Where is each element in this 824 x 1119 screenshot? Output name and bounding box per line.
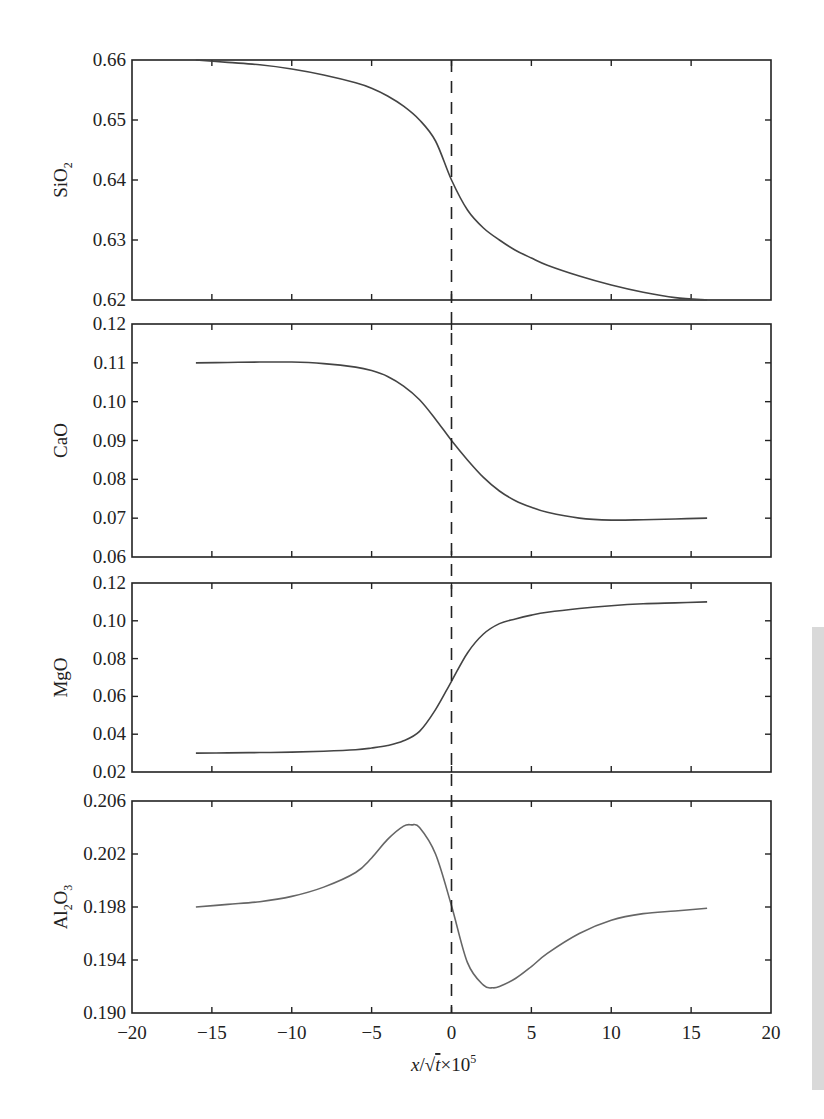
y-tick-label: 0.194 [83, 949, 126, 970]
figure: 0.660.650.640.630.62SiO20.120.110.100.09… [0, 0, 824, 1119]
y-tick-label: 0.66 [93, 49, 126, 70]
y-tick-label: 0.12 [93, 313, 126, 334]
y-tick-label: 0.10 [93, 610, 126, 631]
panel-sio2: 0.660.650.640.630.62SiO2 [50, 49, 771, 310]
x-tick-label: 15 [682, 1022, 701, 1043]
data-line-sio2 [196, 60, 707, 300]
y-tick-label: 0.198 [83, 896, 126, 917]
y-tick-label: 0.63 [93, 229, 126, 250]
panel-al2o3: 0.2060.2020.1980.1940.190Al2O3 [50, 790, 771, 1023]
x-axis-title: x/√t×105 [410, 1052, 476, 1075]
x-tick-label: 5 [527, 1022, 537, 1043]
y-tick-label: 0.02 [93, 761, 126, 782]
y-tick-label: 0.190 [83, 1002, 126, 1023]
x-axis-tick-labels: −20−15−10−505101520 [117, 1022, 780, 1043]
panel-mgo: 0.120.100.080.060.040.02MgO [50, 572, 771, 782]
x-tick-label: 10 [602, 1022, 621, 1043]
x-tick-label: 20 [762, 1022, 781, 1043]
y-tick-label: 0.202 [83, 843, 126, 864]
y-tick-label: 0.07 [93, 507, 126, 528]
y-axis-title: SiO2 [50, 162, 75, 198]
x-tick-label: −20 [117, 1022, 147, 1043]
panel-cao: 0.120.110.100.090.080.070.06CaO [50, 313, 771, 567]
y-tick-label: 0.08 [93, 648, 126, 669]
y-tick-label: 0.206 [83, 790, 126, 811]
y-tick-label: 0.09 [93, 430, 126, 451]
y-tick-label: 0.65 [93, 109, 126, 130]
y-tick-label: 0.12 [93, 572, 126, 593]
x-tick-label: −15 [197, 1022, 227, 1043]
chart-panels: 0.660.650.640.630.62SiO20.120.110.100.09… [50, 49, 771, 1023]
stacked-line-charts: 0.660.650.640.630.62SiO20.120.110.100.09… [0, 0, 824, 1119]
y-tick-label: 0.11 [93, 352, 126, 373]
y-tick-label: 0.10 [93, 391, 126, 412]
y-tick-label: 0.64 [93, 169, 127, 190]
x-tick-label: −10 [277, 1022, 307, 1043]
y-axis-title: CaO [50, 423, 71, 458]
y-tick-label: 0.08 [93, 468, 126, 489]
x-tick-label: −5 [362, 1022, 382, 1043]
y-tick-label: 0.06 [93, 546, 126, 567]
y-axis-title: MgO [50, 657, 71, 697]
y-axis-title: Al2O3 [50, 885, 75, 930]
x-tick-label: 0 [447, 1022, 457, 1043]
y-tick-label: 0.04 [93, 723, 127, 744]
y-tick-label: 0.62 [93, 289, 126, 310]
y-tick-label: 0.06 [93, 685, 126, 706]
page-edge-shadow [812, 627, 824, 1090]
